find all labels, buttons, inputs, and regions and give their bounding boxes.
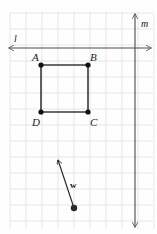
vertex-dot-b [85, 62, 90, 67]
vertex-label-a: A [31, 51, 39, 63]
figure-canvas: l m A B C D w [0, 0, 157, 234]
vertex-dot-a [38, 62, 43, 67]
vertex-label-d: D [31, 116, 40, 128]
vertex-label-c: C [90, 116, 98, 128]
vector-w-label: w [70, 180, 77, 190]
vertex-label-b: B [90, 51, 97, 63]
line-m-label: m [141, 18, 148, 29]
geometry-figure: l m A B C D w [0, 0, 157, 234]
vector-w-tail-dot [71, 205, 77, 211]
vertex-dot-d [38, 109, 43, 114]
figure-background [0, 0, 157, 234]
vertex-dot-c [85, 109, 90, 114]
line-l-label: l [14, 33, 17, 44]
